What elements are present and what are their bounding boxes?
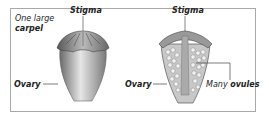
right-ovary-label: Ovary xyxy=(125,80,152,89)
carpel-section-icon xyxy=(153,16,230,103)
left-ovary-label: Ovary xyxy=(14,80,41,89)
caption-line1: One large xyxy=(15,14,54,23)
ovules-prefix: Many xyxy=(206,80,228,89)
whole-carpel-icon xyxy=(43,16,109,101)
ovules-label: Many ovules xyxy=(206,80,260,89)
ovules-word: ovules xyxy=(230,80,259,89)
right-stigma-label: Stigma xyxy=(172,6,204,15)
caption-carpel: carpel xyxy=(15,24,43,33)
left-stigma-label: Stigma xyxy=(70,6,102,15)
